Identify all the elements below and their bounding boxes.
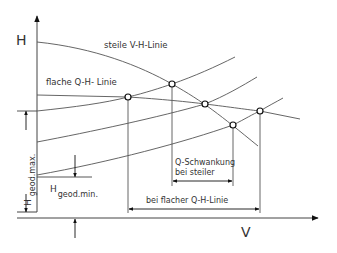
operating-point-2 [169,81,175,87]
x-axis-label: V [241,224,251,240]
q-variation-flat-label: bei flacher Q-H-Linie [146,196,228,205]
y-axis-label: H [16,32,27,48]
operating-point-5 [257,108,263,114]
flat-pump-curve [37,95,300,119]
flat-curve-label: flache Q-H- Linie [46,77,117,87]
steep-curve-label: steile V-H-Linie [104,40,168,50]
pump-curve-diagram: H V steile V-H-Linie flache Q-H- Linie H… [0,0,337,253]
operating-point-1 [125,94,131,100]
h-geod-max-label: Hgeod.max. [23,154,37,206]
h-geod-min-label: Hgeod.min. [50,184,98,199]
operating-point-3 [202,101,208,107]
operating-point-4 [230,122,236,128]
q-variation-label-line1: Q-Schwankung [175,158,235,167]
steep-pump-curve [37,42,258,146]
q-variation-label-line2: bei steiler [175,168,215,177]
